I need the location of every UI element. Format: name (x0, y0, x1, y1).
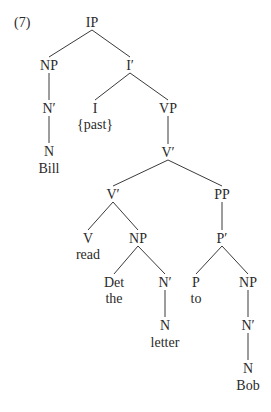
tree-node-n1: N (44, 144, 54, 159)
tree-edge-pbar-np3 (222, 246, 248, 274)
tree-edge-pbar-p (196, 246, 222, 274)
tree-edge-vbar2-np2 (113, 202, 138, 230)
tree-node-nbar1: N′ (42, 101, 55, 116)
tree-nodes: IPNPI′N′IVPNV′V′PPVNPP′DetN′PNPNN′N (40, 15, 257, 376)
tree-node-np2: NP (129, 231, 147, 246)
tree-terminals: {past}BillreadthetoletterBob (38, 117, 259, 393)
example-number: (7) (14, 15, 31, 31)
terminal-word-bob: Bob (236, 378, 259, 393)
tree-edge-ip-ibar (92, 30, 130, 57)
tree-node-v: V (83, 231, 93, 246)
tree-edge-vbar1-pp (168, 160, 222, 186)
tree-node-np1: NP (40, 58, 58, 73)
tree-node-n3: N (243, 361, 253, 376)
terminal-word-past: {past} (77, 117, 113, 132)
terminal-word-the: the (105, 291, 122, 306)
terminal-word-letter: letter (151, 335, 180, 350)
tree-node-vp: VP (159, 101, 177, 116)
tree-node-vbar2: V′ (106, 187, 119, 202)
tree-node-pp: PP (214, 187, 230, 202)
tree-node-det: Det (104, 275, 124, 290)
tree-node-np3: NP (239, 275, 257, 290)
tree-edge-ibar-vp (130, 73, 168, 100)
tree-edge-ip-np1 (49, 30, 92, 57)
tree-edge-np2-det (114, 246, 138, 274)
tree-node-ibar: I′ (126, 58, 134, 73)
tree-node-vbar1: V′ (161, 145, 174, 160)
tree-node-nbar3: N′ (241, 318, 254, 333)
tree-edge-np2-nbar2 (138, 246, 165, 274)
tree-node-ip: IP (86, 15, 99, 30)
syntax-tree-diagram: IPNPI′N′IVPNV′V′PPVNPP′DetN′PNPNN′N {pas… (0, 0, 271, 412)
tree-edge-vbar1-vbar2 (113, 160, 168, 186)
terminal-word-to: to (191, 291, 202, 306)
tree-node-pbar: P′ (217, 231, 228, 246)
tree-node-i: I (93, 101, 98, 116)
tree-edge-vbar2-v (88, 202, 113, 230)
tree-node-n2: N (160, 318, 170, 333)
terminal-word-bill: Bill (38, 161, 59, 176)
terminal-word-read: read (76, 247, 100, 262)
tree-node-p: P (192, 275, 200, 290)
tree-edge-ibar-i (95, 73, 130, 100)
tree-node-nbar2: N′ (158, 275, 171, 290)
